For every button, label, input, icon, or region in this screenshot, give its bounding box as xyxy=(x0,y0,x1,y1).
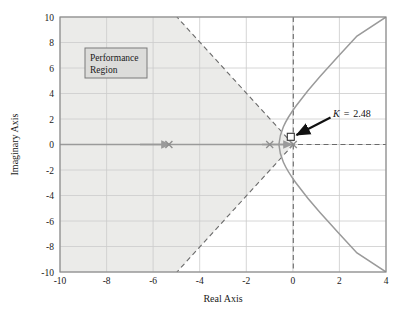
y-tick-label: -8 xyxy=(46,242,54,252)
y-tick-label: -6 xyxy=(46,217,54,227)
x-tick-label: -8 xyxy=(103,276,111,286)
x-tick-label: -6 xyxy=(149,276,157,286)
x-tick-label: -10 xyxy=(54,276,67,286)
y-tick-label: -10 xyxy=(41,268,54,278)
y-tick-label: 0 xyxy=(49,140,54,150)
x-tick-label: 2 xyxy=(337,276,342,286)
y-tick-label: 6 xyxy=(49,64,54,74)
y-tick-label: 4 xyxy=(49,89,54,99)
y-tick-label: -4 xyxy=(46,191,54,201)
performance-region-callout: Performance Region xyxy=(85,48,147,78)
gain-label-eq: = xyxy=(344,108,350,119)
x-tick-label: -2 xyxy=(242,276,250,286)
root-locus-figure: K=2.48 Performance Region -10 -8 -6 -4 -… xyxy=(0,0,404,314)
y-tick-label: 2 xyxy=(49,115,54,125)
gain-point-marker xyxy=(287,133,294,140)
y-tick-label: 10 xyxy=(45,13,55,23)
y-tick-label: -2 xyxy=(46,166,54,176)
x-tick-label: -4 xyxy=(196,276,204,286)
x-tick-label: 0 xyxy=(291,276,296,286)
performance-region-label-line2: Region xyxy=(90,65,118,75)
gain-label-value: 2.48 xyxy=(353,108,371,119)
x-axis-title: Real Axis xyxy=(203,293,242,304)
root-locus-plot: K=2.48 Performance Region -10 -8 -6 -4 -… xyxy=(0,0,404,314)
performance-region-label-line1: Performance xyxy=(90,53,139,63)
x-tick-labels: -10 -8 -6 -4 -2 0 2 4 xyxy=(54,276,389,286)
y-tick-label: 8 xyxy=(49,38,54,48)
x-tick-label: 4 xyxy=(384,276,389,286)
y-tick-labels: -10 -8 -6 -4 -2 0 2 4 6 8 10 xyxy=(41,13,54,278)
y-axis-title: Imaginary Axis xyxy=(9,113,20,175)
gain-label-k: K xyxy=(332,108,341,119)
